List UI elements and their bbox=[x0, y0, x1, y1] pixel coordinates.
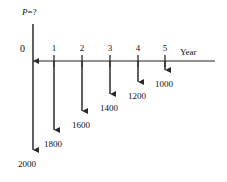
origin-label: 0 bbox=[20, 44, 25, 54]
amount-label-year-3: 1400 bbox=[96, 104, 122, 113]
amount-label-year-0: 2000 bbox=[14, 160, 40, 169]
present-value-label: P=? bbox=[22, 8, 37, 17]
amount-label-year-4: 1200 bbox=[124, 92, 150, 101]
tick-label-4: 4 bbox=[131, 44, 145, 53]
cash-flow-diagram: P=? 0 Year 1 2 3 4 5 2000 1800 1600 1400… bbox=[0, 0, 227, 182]
tick-label-3: 3 bbox=[103, 44, 117, 53]
tick-label-1: 1 bbox=[47, 44, 61, 53]
amount-label-year-1: 1800 bbox=[40, 140, 66, 149]
present-value-question: ? bbox=[33, 7, 37, 17]
cash-flow-graphics bbox=[0, 0, 227, 182]
amount-label-year-5: 1000 bbox=[151, 80, 177, 89]
amount-label-year-2: 1600 bbox=[68, 121, 94, 130]
tick-label-2: 2 bbox=[75, 44, 89, 53]
axis-title-year: Year bbox=[180, 48, 197, 57]
tick-label-5: 5 bbox=[158, 44, 172, 53]
